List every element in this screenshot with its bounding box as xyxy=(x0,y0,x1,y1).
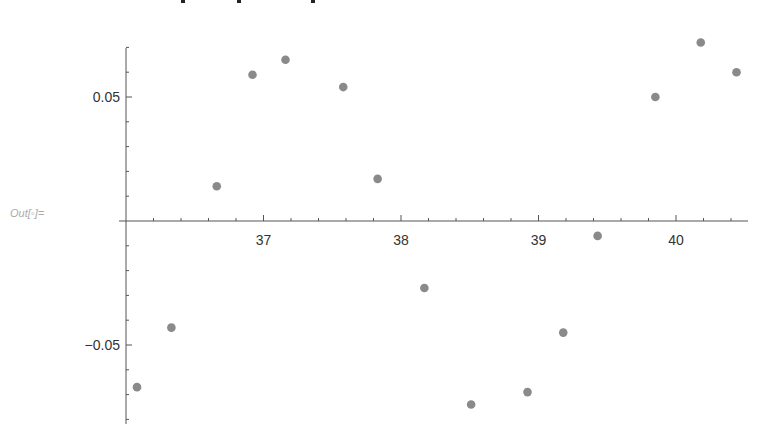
data-point xyxy=(212,182,221,191)
scatter-plot: 37383940−0.050.05 xyxy=(0,0,762,436)
data-point xyxy=(651,93,660,102)
x-tick-label: 38 xyxy=(393,232,409,248)
data-point xyxy=(593,232,602,241)
data-point xyxy=(732,68,741,77)
data-point xyxy=(420,284,429,293)
data-points xyxy=(133,38,741,409)
data-point xyxy=(339,83,348,92)
data-point xyxy=(559,328,568,337)
data-point xyxy=(167,323,176,332)
data-point xyxy=(373,175,382,184)
data-point xyxy=(696,38,705,47)
data-point xyxy=(248,70,257,79)
y-tick-label: 0.05 xyxy=(93,89,120,105)
y-tick-label: −0.05 xyxy=(85,337,121,353)
data-point xyxy=(467,400,476,409)
x-tick-label: 40 xyxy=(668,232,684,248)
axes: 37383940−0.050.05 xyxy=(85,47,748,424)
x-tick-label: 39 xyxy=(531,232,547,248)
data-point xyxy=(523,388,532,397)
data-point xyxy=(133,383,142,392)
x-tick-label: 37 xyxy=(256,232,272,248)
data-point xyxy=(281,56,290,65)
